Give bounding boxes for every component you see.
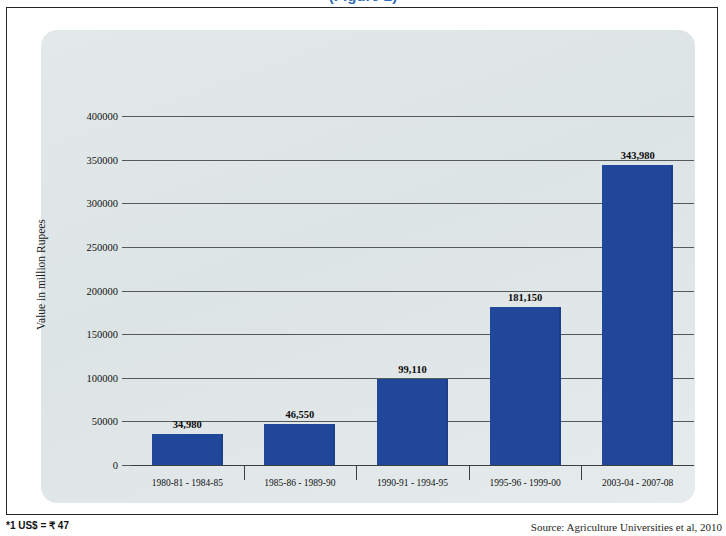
y-tick-mark [122,203,131,204]
chart-panel: Value in million Rupees 0500001000001500… [41,30,695,503]
y-tick-mark [122,291,131,292]
gridline [131,116,694,117]
y-tick-label: 300000 [87,198,119,209]
y-tick-label: 150000 [87,329,119,340]
y-tick-mark [122,247,131,248]
y-axis-title: Value in million Rupees [35,150,47,330]
y-tick-label: 0 [113,460,118,471]
category-separator [469,465,470,480]
plot-area: 0500001000001500002000002500003000003500… [131,116,694,465]
figure-frame: Value in million Rupees 0500001000001500… [6,7,718,515]
x-category-label: 1995-96 - 1999-00 [489,478,560,488]
figure-title-cropped: (Figure 2) [0,0,726,5]
category-axis: 1980-81 - 1984-851985-86 - 1989-901990-9… [131,465,694,505]
figure-title-text: (Figure 2) [0,0,726,4]
y-tick-mark [122,334,131,335]
y-tick-mark [122,465,131,466]
bar-value-label: 343,980 [621,150,655,161]
category-separator [356,465,357,480]
y-tick-mark [122,421,131,422]
footnote-source: Source: Agriculture Universities et al, … [531,521,722,536]
bar-value-label: 34,980 [173,419,202,430]
y-tick-label: 350000 [87,154,119,165]
y-tick-label: 250000 [87,241,119,252]
x-category-label: 1985-86 - 1989-90 [264,478,335,488]
bar-value-label: 99,110 [398,364,426,375]
bar [264,424,335,465]
x-category-label: 1980-81 - 1984-85 [152,478,223,488]
category-separator [244,465,245,480]
footnote-currency: *1 US$ = ₹ 47 [6,520,69,536]
x-category-label: 2003-04 - 2007-08 [602,478,673,488]
y-tick-label: 100000 [87,372,119,383]
bar-value-label: 181,150 [508,292,542,303]
y-tick-mark [122,160,131,161]
y-tick-label: 200000 [87,285,119,296]
bar [490,307,561,465]
bar [377,379,448,465]
y-tick-label: 400000 [87,111,119,122]
bar [602,165,673,465]
x-category-label: 1990-91 - 1994-95 [377,478,448,488]
bar-value-label: 46,550 [285,409,314,420]
y-tick-label: 50000 [92,416,118,427]
y-tick-mark [122,378,131,379]
bar [152,434,223,465]
category-separator [581,465,582,480]
y-tick-mark [122,116,131,117]
gridline [131,160,694,161]
